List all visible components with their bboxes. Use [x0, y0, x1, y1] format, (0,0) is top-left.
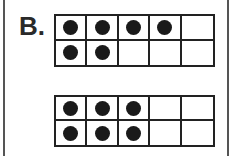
ten-frame-cell: [56, 16, 87, 41]
ten-frame-cell: [119, 97, 150, 121]
counter-dot-icon: [95, 20, 110, 35]
ten-frame-cell: [150, 16, 181, 41]
counter-dot-icon: [63, 101, 78, 116]
ten-frame-cell: [56, 97, 87, 121]
ten-frame-cell: [56, 121, 87, 145]
left-border: [3, 0, 5, 156]
ten-frame-bottom: [54, 95, 215, 147]
ten-frame-cell: [150, 97, 181, 121]
ten-frame-cell: [87, 41, 118, 66]
ten-frame-cell: [150, 121, 181, 145]
ten-frame-cell: [119, 16, 150, 41]
ten-frame-cell: [87, 121, 118, 145]
ten-frame-cell: [182, 41, 213, 66]
ten-frame-cell: [182, 97, 213, 121]
counter-dot-icon: [157, 20, 172, 35]
right-border: [227, 0, 229, 156]
ten-frame-cell: [87, 16, 118, 41]
ten-frame-cell: [87, 97, 118, 121]
counter-dot-icon: [63, 20, 78, 35]
counter-dot-icon: [95, 101, 110, 116]
ten-frame-cell: [119, 41, 150, 66]
counter-dot-icon: [95, 45, 110, 60]
counter-dot-icon: [63, 126, 78, 141]
ten-frame-cell: [150, 41, 181, 66]
ten-frame-cell: [56, 41, 87, 66]
ten-frame-cell: [182, 16, 213, 41]
counter-dot-icon: [126, 126, 141, 141]
counter-dot-icon: [63, 45, 78, 60]
ten-frame-top: [54, 14, 215, 67]
counter-dot-icon: [95, 126, 110, 141]
ten-frame-cell: [182, 121, 213, 145]
ten-frame-cell: [119, 121, 150, 145]
counter-dot-icon: [126, 101, 141, 116]
problem-label: B.: [19, 13, 45, 39]
counter-dot-icon: [126, 20, 141, 35]
